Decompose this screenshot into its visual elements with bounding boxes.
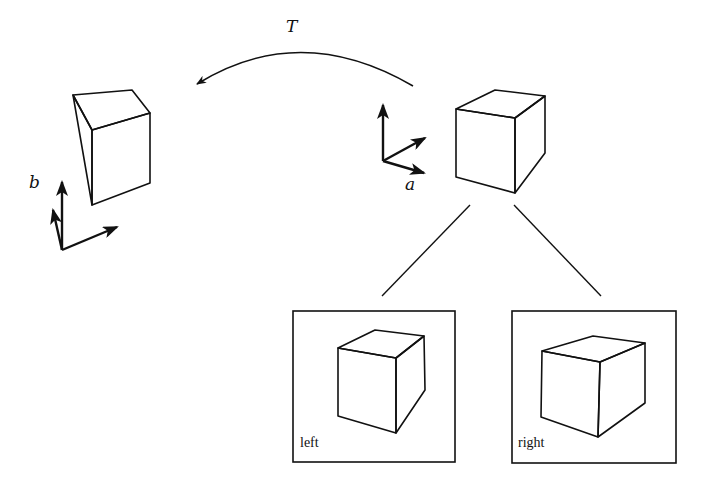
transform-label: T	[286, 16, 297, 36]
transform-arrow	[197, 52, 413, 86]
view-right-cube	[541, 336, 645, 437]
frame-a-label: a	[405, 174, 415, 194]
cube-b	[73, 90, 150, 205]
view-left-label: left	[300, 435, 319, 451]
view-left-cube	[338, 330, 425, 433]
frame-b-label: b	[29, 172, 40, 192]
frame-a-axes	[383, 105, 425, 173]
view-right-label: right	[518, 435, 544, 451]
connector-left	[382, 205, 470, 296]
diagram-canvas	[0, 0, 701, 488]
cube-a	[456, 90, 545, 193]
connector-right	[514, 205, 601, 296]
frame-b-axes	[53, 182, 117, 250]
